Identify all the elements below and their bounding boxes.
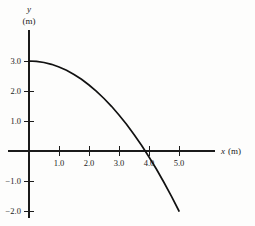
y-tick-label-3: 3.0: [10, 56, 21, 66]
x-tick-label-5: 5.0: [174, 158, 185, 168]
x-tick-label-2: 2.0: [84, 158, 95, 168]
x-tick-label-1: 1.0: [54, 158, 65, 168]
y-axis-title-variable: y: [26, 4, 31, 14]
x-tick-label-3: 3.0: [114, 158, 125, 168]
x-axis-title: x(m): [220, 146, 241, 156]
x-axis-title-unit: (m): [228, 146, 241, 156]
y-tick-label-1: 1.0: [10, 116, 21, 126]
y-tick-label-2: 2.0: [10, 86, 21, 96]
trajectory-plot: 1.0 2.0 3.0 4.0 5.0 3.0 2.0 1.0 −1.0 −2.…: [0, 0, 255, 226]
trajectory-curve: [29, 61, 179, 211]
chart-figure: 1.0 2.0 3.0 4.0 5.0 3.0 2.0 1.0 −1.0 −2.…: [0, 0, 255, 226]
y-axis-title-unit: (m): [23, 16, 36, 26]
y-tick-label-neg2: −2.0: [6, 206, 21, 216]
y-tick-label-neg1: −1.0: [6, 176, 21, 186]
x-axis-title-variable: x: [220, 146, 225, 156]
y-axis-title: y (m): [23, 4, 36, 26]
svg-text:x(m): x(m): [220, 146, 241, 156]
